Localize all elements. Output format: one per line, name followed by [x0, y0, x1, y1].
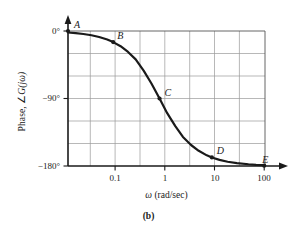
x-tick-label-0-1: 0.1 — [100, 173, 130, 183]
x-axis-title: ω (rad/sec) — [68, 190, 265, 200]
point-marker-a — [66, 29, 70, 33]
point-marker-b — [111, 40, 115, 44]
figure-caption: (b) — [0, 211, 297, 221]
point-marker-c — [157, 96, 161, 100]
y-tick-label-minus90: −90° — [18, 93, 60, 103]
x-tick-label-100: 100 — [249, 173, 279, 183]
point-label-b: B — [117, 30, 123, 41]
x-tick-label-10: 10 — [200, 173, 230, 183]
point-label-d: D — [217, 145, 224, 156]
point-marker-d — [210, 155, 214, 159]
point-label-a: A — [74, 19, 80, 30]
y-tick-label-minus180: −180° — [14, 161, 60, 171]
point-label-e: E — [262, 154, 268, 165]
x-axis-arrowhead — [279, 163, 288, 170]
phase-bode-figure: Phase, ∠G(jω) 0° −90° −180° 0.1 1 10 100… — [0, 0, 297, 232]
point-label-c: C — [165, 87, 172, 98]
y-axis-title-function: G(jω) — [17, 72, 27, 95]
y-axis-arrowhead — [65, 15, 72, 24]
x-tick-label-1: 1 — [150, 173, 180, 183]
y-axis-title-prefix: Phase, — [17, 104, 27, 132]
y-tick-label-0: 0° — [18, 26, 60, 36]
x-axis-title-units: (rad/sec) — [152, 190, 188, 200]
